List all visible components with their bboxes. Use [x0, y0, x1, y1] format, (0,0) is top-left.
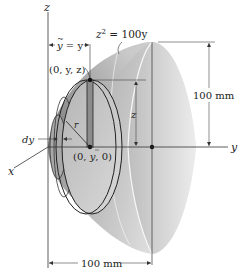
point-center-label: (0, y, 0) [73, 151, 112, 162]
horizontal-dimension: 100 mm [49, 256, 151, 269]
point-top-label: (0, y, z) [49, 64, 86, 75]
svg-text:~: ~ [57, 35, 64, 44]
vertical-dimension-label: 100 mm [193, 90, 235, 101]
disc-element [56, 78, 122, 214]
z-axis-label: z [43, 1, 50, 14]
radius-label: r [74, 120, 79, 130]
x-axis [14, 147, 48, 168]
y-axis-label: y [230, 141, 238, 154]
paraboloid-diagram: z y x z2 = 100y y = y ~ (0, y, z) (0, y,… [0, 0, 243, 279]
horizontal-dimension-label: 100 mm [81, 258, 123, 269]
svg-text:dy: dy [22, 134, 34, 145]
equation-label: z2 = 100y [95, 28, 148, 40]
height-z-label: z [130, 109, 137, 120]
x-axis-label: x [8, 165, 15, 178]
point-top [88, 78, 92, 82]
